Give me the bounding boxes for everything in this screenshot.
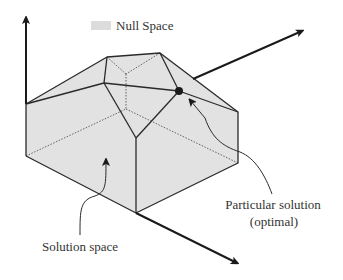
legend-label: Null Space	[116, 18, 174, 33]
particular-solution-point	[175, 87, 183, 95]
polytope-body	[26, 53, 238, 213]
solution-space-diagram: Null Space Particular solution (optimal)…	[0, 0, 343, 280]
solution-space-label: Solution space	[42, 239, 118, 254]
right-axis-arrow	[193, 31, 302, 79]
particular-solution-label: Particular solution	[225, 197, 321, 212]
bottom-axis-arrow	[136, 213, 237, 263]
optimal-label: (optimal)	[250, 214, 298, 229]
legend-swatch	[91, 21, 111, 30]
